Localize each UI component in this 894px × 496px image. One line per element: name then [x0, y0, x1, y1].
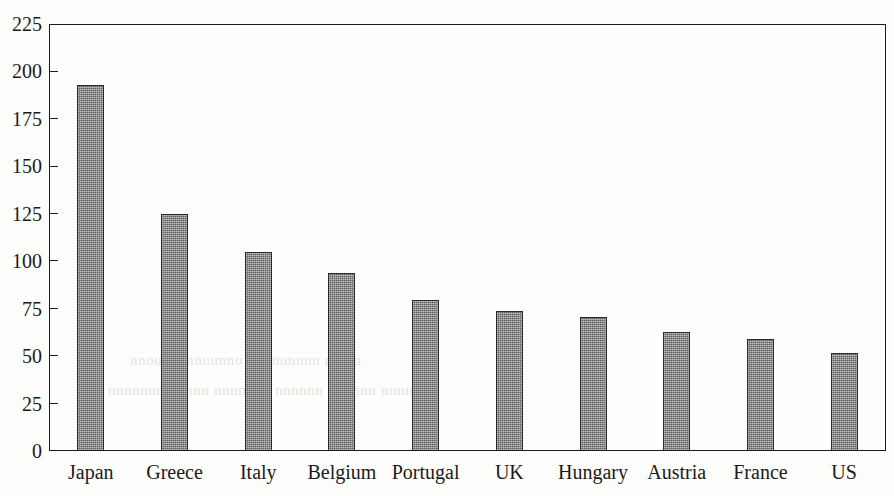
y-axis-tick-label: 150	[0, 156, 42, 176]
y-axis-tick-label: 50	[0, 346, 42, 366]
y-axis-tick-label: 75	[0, 299, 42, 319]
x-axis-label-us: US	[784, 462, 894, 482]
y-axis-tick-label: 0	[0, 441, 42, 461]
y-axis-tick-label: 25	[0, 394, 42, 414]
y-axis-tick	[49, 213, 58, 214]
y-axis-tick	[49, 118, 58, 119]
y-axis-tick-label: 125	[0, 204, 42, 224]
y-axis-tick-label: 175	[0, 109, 42, 129]
y-axis-tick	[49, 355, 58, 356]
y-axis-tick	[49, 308, 58, 309]
y-axis-tick-label: 225	[0, 14, 42, 34]
y-axis-tick	[49, 71, 58, 72]
y-axis-tick-label: 100	[0, 251, 42, 271]
y-axis-tick	[49, 166, 58, 167]
y-axis-tick	[49, 260, 58, 261]
y-axis-tick	[49, 403, 58, 404]
y-axis-tick-label: 200	[0, 61, 42, 81]
plot-frame	[49, 24, 886, 451]
bar-chart: nnoun amnuunno nunnunnnn nn nn nnnnnunn …	[0, 0, 894, 496]
